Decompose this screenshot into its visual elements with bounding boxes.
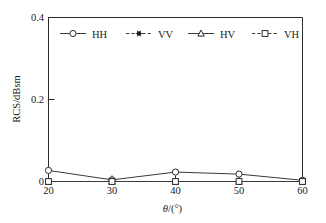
chart-figure: 0.4 0.2 0 RCS/dBsm 20 30 40 50 60 θ /(°)… bbox=[0, 0, 326, 223]
axes-frame-box bbox=[49, 18, 303, 182]
y-tick-label-mid: 0.2 bbox=[31, 94, 44, 105]
data-point-vh-40 bbox=[173, 179, 179, 185]
legend-label-vh: VH bbox=[284, 29, 300, 40]
x-axis-title: θ /(°) bbox=[163, 203, 183, 215]
x-tick-label-30: 30 bbox=[107, 185, 118, 196]
legend-entry-vv[interactable]: VV bbox=[126, 29, 174, 40]
legend-entry-vh[interactable]: VH bbox=[252, 29, 300, 40]
legend-square-open-marker bbox=[262, 31, 268, 37]
chart-legend: HHVVHVVH bbox=[60, 29, 300, 40]
legend-entry-hv[interactable]: HV bbox=[188, 29, 236, 40]
rcs-line-chart: 0.4 0.2 0 RCS/dBsm 20 30 40 50 60 θ /(°)… bbox=[0, 0, 326, 223]
y-tick-label-top: 0.4 bbox=[31, 12, 45, 23]
data-point-hh-50 bbox=[236, 171, 242, 177]
legend-circle-open-marker bbox=[70, 30, 76, 36]
y-axis-title: RCS/dBsm bbox=[11, 75, 22, 122]
y-axis-ticks bbox=[49, 18, 55, 182]
plot-frame bbox=[49, 18, 303, 182]
data-point-vh-50 bbox=[236, 179, 242, 185]
data-point-hh-20 bbox=[45, 167, 51, 173]
legend-star-marker bbox=[136, 31, 143, 37]
x-tick-label-40: 40 bbox=[170, 185, 181, 196]
data-point-vh-30 bbox=[109, 179, 115, 185]
x-tick-label-60: 60 bbox=[297, 185, 308, 196]
data-point-vh-60 bbox=[300, 179, 306, 185]
legend-label-hv: HV bbox=[220, 29, 236, 40]
x-axis-title-unit: /(°) bbox=[168, 203, 183, 215]
x-tick-label-20: 20 bbox=[43, 185, 54, 196]
data-point-vh-20 bbox=[46, 179, 52, 185]
data-point-hh-40 bbox=[172, 169, 178, 175]
legend-entry-hh[interactable]: HH bbox=[60, 29, 108, 40]
legend-label-vv: VV bbox=[158, 29, 174, 40]
legend-label-hh: HH bbox=[92, 29, 108, 40]
x-tick-label-50: 50 bbox=[234, 185, 245, 196]
